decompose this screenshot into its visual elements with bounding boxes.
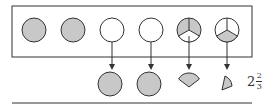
empty-circle-2 bbox=[139, 18, 163, 42]
result-third-sector-1 bbox=[179, 73, 200, 87]
fraction-part: 2 3 bbox=[256, 72, 262, 91]
mixed-number-result: 2 2 3 bbox=[247, 72, 262, 91]
fraction-diagram bbox=[0, 0, 272, 107]
denominator: 3 bbox=[257, 83, 262, 91]
shaded-circle-2 bbox=[61, 18, 85, 42]
result-circle-1 bbox=[98, 72, 122, 96]
result-third-sector-2 bbox=[222, 76, 232, 90]
numerator: 2 bbox=[257, 72, 262, 80]
empty-circle-1 bbox=[100, 18, 124, 42]
shaded-circle-1 bbox=[22, 18, 46, 42]
whole-part: 2 bbox=[247, 74, 255, 89]
thirds-circle-one-shaded bbox=[215, 18, 239, 42]
result-circle-2 bbox=[137, 72, 161, 96]
